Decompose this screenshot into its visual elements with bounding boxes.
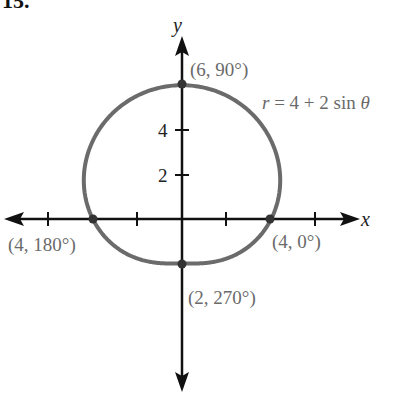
point-2-270 [178, 260, 187, 269]
label-point-6-90: (6, 90°) [190, 59, 248, 81]
y-axis-label: y [171, 14, 182, 37]
label-point-2-270: (2, 270°) [188, 287, 256, 309]
x-axis-label: x [360, 208, 370, 230]
point-4-0 [266, 215, 275, 224]
y-tick-2: 2 [158, 165, 168, 186]
polar-plot: y x 4 2 (6, 90°) (4, 0°) (4, 180°) (2, 2… [0, 0, 400, 394]
label-point-4-180: (4, 180°) [8, 234, 76, 256]
label-point-4-0: (4, 0°) [272, 231, 321, 253]
y-tick-4: 4 [158, 120, 168, 141]
point-4-180 [89, 215, 98, 224]
y-axis [175, 36, 189, 392]
equation-label: r = 4 + 2 sin θ [262, 92, 370, 113]
point-6-90 [178, 80, 187, 89]
